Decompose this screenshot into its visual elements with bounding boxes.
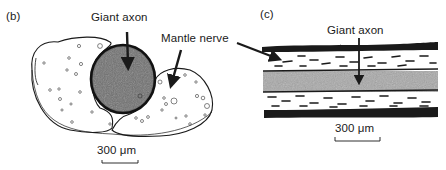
giant-axon-label-b: Giant axon <box>91 11 148 23</box>
panel-label-c: (c) <box>260 8 274 20</box>
scale-bar-c <box>335 137 380 141</box>
scale-label-c: 300 μm <box>335 122 374 134</box>
giant-axon-cross-section <box>91 45 155 113</box>
mantle-nerve-label: Mantle nerve <box>161 32 229 44</box>
scale-label-b: 300 μm <box>97 144 136 156</box>
giant-axon-arrow-b <box>127 32 128 64</box>
figure: (b) Giant axon Mantle nerve 300 μm (c) G… <box>0 0 446 170</box>
giant-axon-longitudinal-band <box>263 69 438 92</box>
giant-axon-label-c: Giant axon <box>327 24 384 36</box>
scale-bar-b <box>102 160 138 163</box>
panel-label-b: (b) <box>6 10 20 22</box>
